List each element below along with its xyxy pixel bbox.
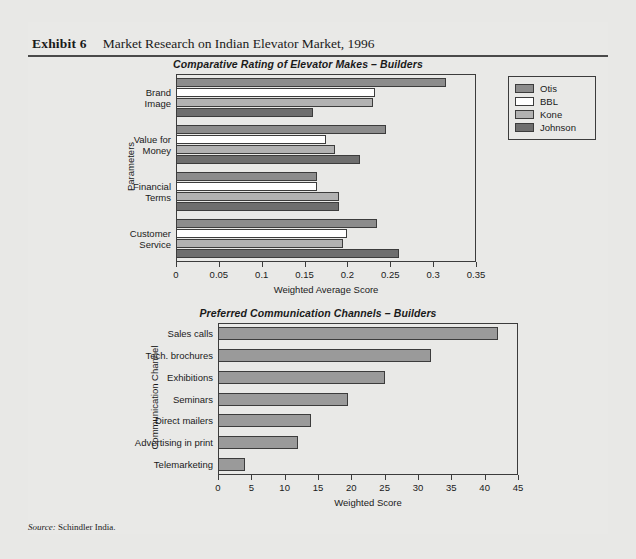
x-tick — [318, 475, 319, 480]
x-tick — [433, 262, 434, 267]
x-tick-label: 0.15 — [285, 269, 325, 280]
legend-label: Johnson — [540, 122, 576, 133]
x-tick — [176, 262, 177, 267]
bar — [176, 202, 339, 211]
y-axis-title: Parameters — [125, 142, 136, 191]
x-tick-label: 0.25 — [370, 269, 410, 280]
x-tick — [418, 475, 419, 480]
bar — [176, 192, 339, 201]
bar — [176, 125, 386, 134]
legend-label: Kone — [540, 109, 562, 120]
legend-item-johnson: Johnson — [515, 121, 588, 134]
x-tick — [305, 262, 306, 267]
x-tick-label: 0.1 — [242, 269, 282, 280]
bar — [176, 135, 326, 144]
bar — [176, 145, 335, 154]
x-tick-label: 0.3 — [413, 269, 453, 280]
bar — [176, 182, 317, 191]
bar — [218, 436, 298, 449]
category-label: Value for Money — [61, 134, 171, 156]
bar — [176, 108, 313, 117]
legend-item-bbl: BBL — [515, 95, 588, 108]
legend-swatch — [515, 110, 534, 119]
exhibit-title: Market Research on Indian Elevator Marke… — [103, 36, 375, 52]
y-axis-title: Communication Channel — [149, 345, 160, 449]
bar — [218, 458, 245, 471]
x-tick-label: 0.35 — [456, 269, 496, 280]
x-axis-title: Weighted Score — [218, 497, 518, 508]
category-label: Brand Image — [61, 87, 171, 109]
x-tick — [285, 475, 286, 480]
category-label: Customer Service — [61, 228, 171, 250]
bar — [218, 414, 311, 427]
category-label: Telemarketing — [103, 459, 213, 470]
x-tick — [218, 475, 219, 480]
source-prefix: Source: — [28, 522, 56, 532]
source-text: Schindler India. — [58, 522, 116, 532]
x-tick — [219, 262, 220, 267]
bar — [218, 371, 385, 384]
x-tick — [451, 475, 452, 480]
category-label: Financial Terms — [61, 181, 171, 203]
x-tick — [518, 475, 519, 480]
legend-swatch — [515, 97, 534, 106]
exhibit-label: Exhibit 6 — [32, 36, 87, 52]
x-tick-label: 0.05 — [199, 269, 239, 280]
exhibit-panel: Exhibit 6 Market Research on Indian Elev… — [28, 22, 608, 534]
legend-item-otis: Otis — [515, 82, 588, 95]
x-tick — [347, 262, 348, 267]
legend-label: Otis — [540, 83, 557, 94]
legend-swatch — [515, 123, 534, 132]
bar — [176, 88, 375, 97]
x-axis-title: Weighted Average Score — [176, 284, 476, 295]
bar — [176, 172, 317, 181]
legend-label: BBL — [540, 96, 558, 107]
x-tick — [251, 475, 252, 480]
bar — [176, 239, 343, 248]
source-note: Source: Schindler India. — [28, 522, 115, 532]
x-tick-label: 45 — [498, 482, 538, 493]
bar — [218, 327, 498, 340]
legend-swatch — [515, 84, 534, 93]
bar — [176, 249, 399, 258]
chart-preferred-channels: Preferred Communication Channels – Build… — [28, 307, 608, 522]
exhibit-header: Exhibit 6 Market Research on Indian Elev… — [28, 22, 608, 57]
x-tick — [385, 475, 386, 480]
bar — [176, 98, 373, 107]
bar — [176, 78, 446, 87]
bar — [176, 219, 377, 228]
x-tick — [476, 262, 477, 267]
bar — [176, 155, 360, 164]
bar — [176, 229, 347, 238]
x-tick — [262, 262, 263, 267]
chart2-plot-area: Sales callsTech. brochuresExhibitionsSem… — [28, 307, 608, 522]
bar — [218, 349, 431, 362]
x-tick-label: 0.2 — [327, 269, 367, 280]
legend-item-kone: Kone — [515, 108, 588, 121]
x-tick-label: 0 — [156, 269, 196, 280]
bar — [218, 393, 348, 406]
x-tick — [390, 262, 391, 267]
chart1-legend: OtisBBLKoneJohnson — [508, 76, 596, 140]
chart-comparative-rating: Comparative Rating of Elevator Makes – B… — [28, 58, 608, 293]
category-label: Sales calls — [103, 328, 213, 339]
x-tick — [485, 475, 486, 480]
x-tick — [351, 475, 352, 480]
